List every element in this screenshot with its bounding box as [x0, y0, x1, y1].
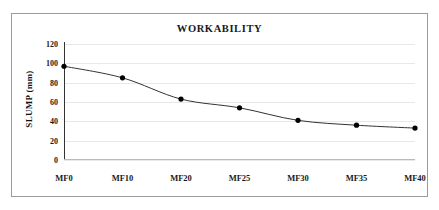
x-axis-tick-label: MF20 — [170, 173, 192, 183]
y-axis-tick-label: 80 — [50, 78, 58, 87]
chart-axes: 020406080100120 MF0MF10MF20MF25MF30MF35M… — [64, 44, 415, 160]
data-series-slump: MF0: 97MF10: 85MF20: 63MF25: 54MF30: 41M… — [64, 44, 415, 160]
data-point-marker: MF35: 36 — [354, 123, 359, 128]
data-point-marker: MF20: 63 — [178, 97, 183, 102]
x-axis-tick-label: MF40 — [404, 173, 426, 183]
x-axis-tick-label: MF0 — [55, 173, 72, 183]
gridline — [64, 160, 415, 161]
series-line — [64, 66, 415, 128]
y-axis-tick-label: 20 — [50, 136, 58, 145]
x-axis-tick-label: MF10 — [112, 173, 134, 183]
data-point-marker: MF10: 85 — [120, 75, 125, 80]
x-axis-tick-label: MF35 — [346, 173, 368, 183]
y-axis-tick-label: 40 — [50, 117, 58, 126]
y-axis-title: SLUMP (mm) — [24, 51, 34, 147]
chart-figure: WORKABILITY SLUMP (mm) 020406080100120 M… — [11, 13, 428, 197]
x-axis-tick-label: MF25 — [229, 173, 251, 183]
y-axis-tick-label: 60 — [50, 98, 58, 107]
data-point-marker: MF25: 54 — [237, 105, 242, 110]
data-point-marker: MF0: 97 — [61, 64, 66, 69]
chart-plot-area: WORKABILITY SLUMP (mm) 020406080100120 M… — [12, 14, 427, 196]
y-axis-tick-label: 0 — [54, 156, 58, 165]
x-axis-tick-label: MF30 — [287, 173, 309, 183]
y-axis-tick-label: 120 — [46, 40, 58, 49]
data-point-marker: MF30: 41 — [295, 118, 300, 123]
chart-title: WORKABILITY — [12, 23, 427, 34]
y-axis-tick-label: 100 — [46, 59, 58, 68]
data-point-marker: MF40: 33 — [412, 126, 417, 131]
